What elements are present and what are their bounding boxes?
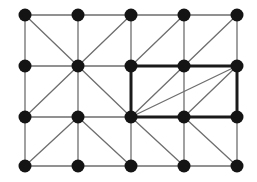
grid-graph-diagram — [0, 0, 257, 182]
diagonal-edge — [184, 15, 237, 66]
graph-node — [231, 60, 244, 73]
graph-node — [231, 111, 244, 124]
graph-node — [125, 160, 138, 173]
diagonal-edge — [78, 117, 131, 166]
graph-node — [178, 60, 191, 73]
diagonal-edge — [131, 15, 184, 66]
graph-node — [178, 9, 191, 22]
diagonal-edge — [184, 66, 237, 117]
diagonal-edge — [25, 15, 78, 66]
graph-node — [72, 111, 85, 124]
graph-node — [125, 9, 138, 22]
graph-node — [19, 160, 32, 173]
graph-node — [72, 60, 85, 73]
diagonal-edge — [25, 66, 78, 117]
graph-node — [125, 111, 138, 124]
graph-node — [231, 160, 244, 173]
graph-node — [231, 9, 244, 22]
diagonal-edge — [184, 117, 237, 166]
diagonal-edge — [131, 66, 184, 117]
graph-node — [72, 9, 85, 22]
graph-node — [178, 160, 191, 173]
graph-node — [19, 111, 32, 124]
diagonal-edge — [78, 66, 131, 117]
graph-node — [178, 111, 191, 124]
graph-node — [19, 9, 32, 22]
diagonal-edge — [131, 117, 184, 166]
diagonal-edge — [25, 117, 78, 166]
graph-node — [19, 60, 32, 73]
graph-node — [125, 60, 138, 73]
graph-node — [72, 160, 85, 173]
diagonal-edge — [78, 15, 131, 66]
